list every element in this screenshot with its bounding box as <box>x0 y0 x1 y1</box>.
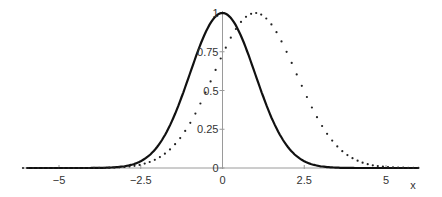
chart: −5−2.502.5500.250.50.751x <box>0 0 442 197</box>
axis-labels: −5−2.502.5500.250.50.751x <box>53 7 417 191</box>
x-tick-label: 0 <box>219 174 225 186</box>
x-tick-label: 5 <box>383 174 389 186</box>
x-tick-label: −2.5 <box>130 174 152 186</box>
y-tick-label: 0 <box>212 162 218 174</box>
y-tick-label: 0.25 <box>197 123 218 135</box>
y-tick-label: 0.75 <box>197 46 218 58</box>
y-tick-label: 1 <box>212 7 218 19</box>
axes <box>24 11 418 169</box>
x-tick-label: 2.5 <box>297 174 312 186</box>
x-tick-label: −5 <box>53 174 66 186</box>
y-tick-label: 0.5 <box>203 85 218 97</box>
x-axis-label: x <box>410 179 416 191</box>
